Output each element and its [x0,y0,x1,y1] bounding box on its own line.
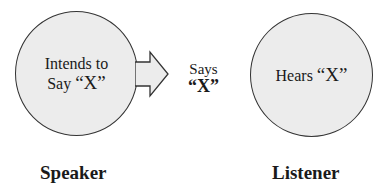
says-line2: “X” [188,78,219,95]
listener-hears-text: Hears “X” [276,65,348,85]
speaker-intent-text: Intends to Say “X” [45,54,109,93]
listener-label: Listener [272,162,340,184]
speaker-intent-quote: “X” [75,72,106,93]
speaker-label: Speaker [40,162,107,184]
listener-hears-prefix: Hears [276,67,317,84]
says-text: Says “X” [188,61,219,95]
right-arrow-icon [135,50,171,98]
listener-hears-quote: “X” [317,64,348,85]
listener-circle: Hears “X” [250,13,373,137]
speaker-intent-line1: Intends to [45,55,109,72]
speaker-circle: Intends to Say “X” [15,11,138,136]
speaker-intent-line2: Say [47,75,75,92]
